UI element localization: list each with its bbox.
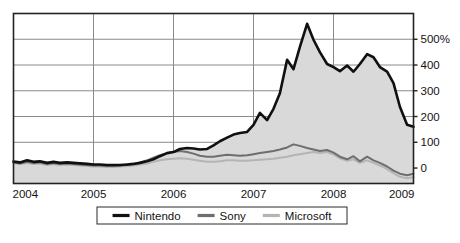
chart-canvas: 0100200300400500% 2004200520062007200820… [0, 0, 460, 243]
stock-performance-chart: 0100200300400500% 2004200520062007200820… [0, 0, 460, 243]
x-tick-label-2007: 2007 [241, 188, 267, 200]
x-tick-label-2004: 2004 [13, 188, 39, 200]
y-tick-label-500: 500% [421, 33, 450, 45]
y-tick-label-200: 200 [421, 111, 440, 123]
x-tick-label-2008: 2008 [321, 188, 347, 200]
x-tick-label-2005: 2005 [81, 188, 107, 200]
y-tick-label-300: 300 [421, 85, 440, 97]
y-tick-label-0: 0 [421, 162, 427, 174]
legend-label-nintendo: Nintendo [135, 210, 181, 222]
y-tick-label-400: 400 [421, 59, 440, 71]
y-tick-label-100: 100 [421, 136, 440, 148]
legend-label-microsoft: Microsoft [285, 210, 332, 222]
legend-label-sony: Sony [220, 210, 246, 222]
chart-legend: NintendoSonyMicrosoft [97, 207, 347, 224]
x-tick-label-2006: 2006 [161, 188, 187, 200]
x-tick-label-2009: 2009 [389, 188, 415, 200]
